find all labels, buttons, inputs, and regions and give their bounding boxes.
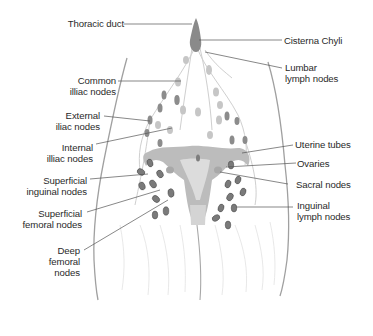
label-thoracic-duct: Thoracic duct [50, 18, 124, 29]
body-outline-right [268, 62, 289, 296]
label-common-iliac-nodes: Common illiac nodes [40, 75, 116, 97]
iliac-lymph-nodes [145, 91, 248, 148]
cisterna-chyli-shape [190, 18, 201, 52]
leg-divider [197, 225, 201, 300]
label-ovaries: Ovaries [297, 158, 329, 169]
label-superficial-inguinal-nodes: Superficial inguinal nodes [10, 175, 87, 197]
label-cisterna-chyli: Cisterna Chyli [284, 35, 342, 46]
label-external-iliac-nodes: External iliac nodes [30, 110, 100, 132]
lymphatic-diagram: Thoracic duct Common illiac nodes Extern… [0, 0, 373, 336]
label-lumbar-lymph-nodes: Lumbar lymph nodes [285, 62, 338, 84]
ovary-left [166, 167, 174, 174]
label-sacral-nodes: Sacral nodes [296, 179, 351, 190]
label-superficial-femoral-nodes: Superficial femoral nodes [4, 208, 82, 230]
label-inguinal-lymph-nodes: Inguinal lymph nodes [297, 200, 350, 222]
label-deep-femoral-nodes: Deep femoral nodes [20, 245, 80, 278]
label-internal-iliac-nodes: Internal illiac nodes [20, 142, 93, 164]
label-uterine-tubes: Uterine tubes [295, 139, 351, 150]
